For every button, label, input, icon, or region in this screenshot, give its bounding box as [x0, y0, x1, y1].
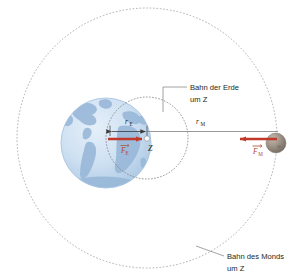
annotation-moon-orbit: Bahn des Monds um Z — [227, 252, 284, 273]
physics-diagram-earth-moon-barycenter: r E r M F E F M Z Bahn der Erde um Z — [0, 0, 294, 276]
moon-body — [266, 133, 286, 153]
label-r-moon-symbol: r — [196, 117, 199, 126]
barycenter-point — [144, 136, 149, 141]
annotation-moon-orbit-line1: Bahn des Monds — [227, 252, 284, 261]
label-r-moon: r M — [196, 117, 205, 127]
label-force-earth-subscript: E — [126, 150, 129, 156]
label-force-moon-symbol: F — [252, 147, 258, 156]
label-barycenter-z: Z — [148, 144, 153, 153]
annotation-earth-orbit-line2: um Z — [190, 95, 208, 104]
annotation-earth-orbit-line1: Bahn der Erde — [190, 83, 239, 92]
label-force-moon: F M — [252, 145, 263, 157]
leader-line-moon-orbit — [196, 246, 224, 256]
earth-body — [61, 98, 151, 190]
label-r-earth-subscript: E — [129, 121, 132, 127]
label-r-moon-subscript: M — [200, 121, 205, 127]
annotation-earth-orbit: Bahn der Erde um Z — [190, 83, 239, 104]
diagram-canvas: r E r M F E F M Z Bahn der Erde um Z — [0, 0, 294, 276]
annotation-moon-orbit-line2: um Z — [227, 264, 245, 273]
label-force-moon-subscript: M — [258, 151, 263, 157]
label-r-earth-symbol: r — [125, 117, 128, 126]
